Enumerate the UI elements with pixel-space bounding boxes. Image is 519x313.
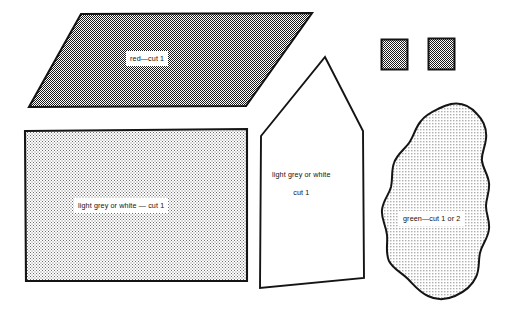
base-piece-label: light grey or white — cut 1: [74, 198, 168, 213]
pattern-diagram-canvas: red—cut 1 light grey or white — cut 1 li…: [0, 0, 519, 313]
roof-piece-label: red—cut 1: [126, 51, 168, 66]
roof-parallelogram-shape: [29, 13, 312, 107]
house-piece-label: light grey or white cut 1: [272, 166, 331, 201]
house-piece-label-line2: cut 1: [272, 184, 331, 202]
blob-piece-label: green—cut 1 or 2: [399, 211, 464, 226]
pattern-shapes-svg: [0, 0, 519, 313]
small-square-left-shape: [382, 40, 408, 70]
tree-blob-shape: [382, 104, 489, 299]
roof-parallelogram-piece: [29, 13, 312, 107]
small-squares-group: [382, 39, 455, 70]
tree-blob-piece: [382, 104, 489, 299]
house-piece-label-line1: light grey or white: [272, 166, 331, 184]
small-square-right-shape: [429, 39, 455, 70]
